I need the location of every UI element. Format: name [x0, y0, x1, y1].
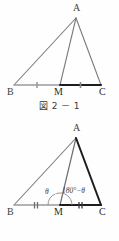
segment-AB — [14, 18, 76, 85]
segment-AC — [76, 18, 101, 85]
vertex-label-M: M — [54, 207, 63, 217]
vertex-label-B: B — [7, 207, 14, 217]
vertex-label-A: A — [73, 123, 80, 133]
vertex-label-B: B — [7, 87, 14, 97]
segment-AM — [60, 18, 76, 85]
figure-2-2-drawing — [0, 120, 119, 218]
vertex-label-C: C — [99, 87, 106, 97]
figure-2-1-caption: 図 2 － 1 — [0, 99, 119, 112]
angle-arc-AMB — [48, 194, 56, 205]
figure-2-1-drawing — [0, 0, 119, 98]
figure-2-2: A B M C θ 180°−θ 図 2 － 2 — [0, 120, 119, 241]
figure-2-1: A B M C 図 2 － 1 — [0, 0, 119, 120]
angle-label-theta: θ — [45, 188, 49, 196]
vertex-label-C: C — [99, 207, 106, 217]
vertex-label-A: A — [73, 3, 80, 13]
figure-page: A B M C 図 2 － 1 — [0, 0, 119, 241]
vertex-label-M: M — [54, 87, 63, 97]
angle-label-180-minus-theta: 180°−θ — [62, 187, 85, 195]
